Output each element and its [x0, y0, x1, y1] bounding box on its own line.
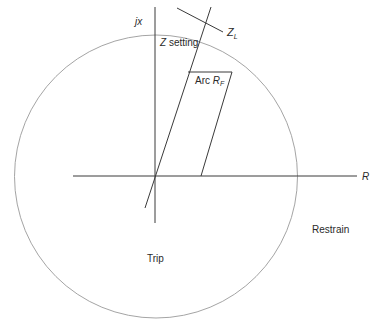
trip-region-label: Trip — [147, 253, 164, 264]
arc-rf-label: Arc RF — [195, 75, 225, 87]
jx-axis-label: jx — [133, 16, 143, 27]
zl-perpendicular-line — [177, 8, 223, 32]
restrain-region-label: Restrain — [312, 224, 349, 235]
zl-label: ZL — [226, 26, 238, 40]
r-axis-label: R — [362, 171, 369, 182]
arc-rf-right-line — [201, 72, 232, 176]
mho-characteristic-diagram: jx R Z setting ZL Arc RF Restrain Trip — [0, 0, 378, 331]
z-setting-label: Z setting — [159, 37, 198, 48]
